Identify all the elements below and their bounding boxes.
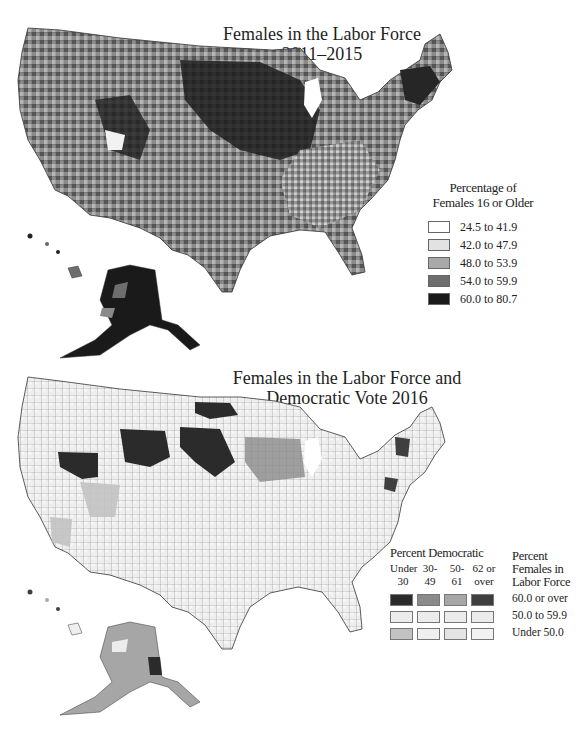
labor-force-legend-title: Percent Females in Labor Force — [512, 550, 570, 589]
legend-class: 60.0 to 80.7 — [428, 290, 568, 308]
democratic-column-header: 50- 61 — [444, 562, 470, 588]
legend-cell — [471, 594, 494, 606]
legend-label: 60.0 to 80.7 — [460, 292, 517, 307]
map2-choropleth — [0, 367, 577, 737]
map1-legend: Percentage of Females 16 or Older 24.5 t… — [428, 180, 568, 308]
legend-title-line2: Females 16 or Older — [428, 195, 538, 210]
legend-title-line1: Percentage of — [428, 180, 538, 195]
legend-class: 54.0 to 59.9 — [428, 272, 568, 290]
us-outline — [18, 377, 445, 649]
column-header-line1: Under — [390, 562, 416, 575]
legend-class: 48.0 to 53.9 — [428, 254, 568, 272]
column-header-line2: over — [471, 575, 497, 588]
column-header-line2: 49 — [417, 575, 443, 588]
legend-label: 48.0 to 53.9 — [460, 256, 517, 271]
legend-cell — [471, 628, 494, 640]
legend-cell — [417, 594, 440, 606]
column-header-line1: 30- — [417, 562, 443, 575]
column-header-line2: 61 — [444, 575, 470, 588]
labor-title-line3: Labor Force — [512, 576, 570, 589]
legend-row-label: 50.0 to 59.9 — [512, 609, 567, 621]
democratic-column-header: 30- 49 — [417, 562, 443, 588]
legend-swatch — [428, 275, 450, 287]
legend-cell — [444, 628, 467, 640]
legend-label: 42.0 to 47.9 — [460, 238, 517, 253]
democratic-column-header: Under 30 — [390, 562, 416, 588]
legend-row-label: Under 50.0 — [512, 626, 564, 638]
legend-swatch — [428, 293, 450, 305]
column-header-line1: 50- — [444, 562, 470, 575]
column-header-line1: 62 or — [471, 562, 497, 575]
democratic-legend-title: Percent Democratic — [390, 546, 484, 561]
legend-swatch — [428, 239, 450, 251]
column-header-line2: 30 — [390, 575, 416, 588]
legend-cell — [444, 594, 467, 606]
legend-cell — [417, 628, 440, 640]
legend-cell — [390, 594, 413, 606]
legend-class: 42.0 to 47.9 — [428, 236, 568, 254]
democratic-column-header: 62 or over — [471, 562, 497, 588]
legend-cell — [417, 611, 440, 623]
legend-cell — [390, 628, 413, 640]
legend-swatch — [428, 221, 450, 233]
legend-cell — [444, 611, 467, 623]
legend-swatch — [428, 257, 450, 269]
legend-class: 24.5 to 41.9 — [428, 218, 568, 236]
legend-cell — [471, 611, 494, 623]
legend-label: 54.0 to 59.9 — [460, 274, 517, 289]
legend-row-label: 60.0 or over — [512, 592, 568, 604]
legend-label: 24.5 to 41.9 — [460, 220, 517, 235]
map1-legend-title: Percentage of Females 16 or Older — [428, 180, 538, 210]
legend-cell — [390, 611, 413, 623]
